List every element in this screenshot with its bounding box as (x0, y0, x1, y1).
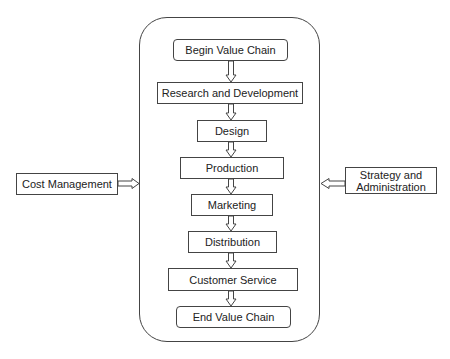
arrow-left-icon (321, 179, 345, 189)
arrow-down-icon (226, 179, 236, 194)
arrow-down-icon (226, 104, 236, 120)
arrow-right-icon (118, 179, 139, 189)
arrow-down-icon (226, 253, 236, 268)
arrow-down-icon (226, 142, 236, 157)
arrow-down-icon (226, 61, 236, 82)
connector-arrows (0, 0, 450, 359)
arrow-down-icon (226, 291, 236, 306)
arrow-down-icon (226, 216, 236, 231)
